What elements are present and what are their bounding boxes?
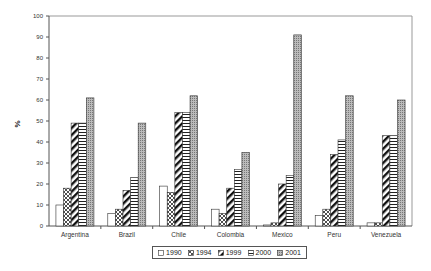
legend-label: 2000 (256, 249, 272, 256)
legend-item-1999: 1999 (218, 249, 242, 256)
bar-brazil-2000 (131, 178, 139, 226)
bar-venezuela-1999 (382, 136, 390, 226)
bar-brazil-1990 (108, 213, 116, 226)
legend-label: 2001 (285, 249, 301, 256)
legend-item-1994: 1994 (188, 249, 212, 256)
bar-chile-2001 (190, 96, 198, 226)
x-category-label: Chile (171, 231, 186, 238)
y-tick-label: 30 (36, 160, 43, 166)
bar-peru-1994 (323, 209, 331, 226)
bar-venezuela-2001 (397, 100, 405, 226)
legend-swatch-icon (277, 250, 283, 256)
legend-item-2001: 2001 (277, 249, 301, 256)
bar-mexico-1994 (271, 223, 279, 226)
bar-argentina-1994 (64, 188, 72, 226)
bar-chile-1994 (167, 192, 175, 226)
y-tick-label: 80 (36, 55, 43, 61)
bar-colombia-1990 (212, 209, 220, 226)
bar-chile-1999 (175, 113, 183, 226)
bar-argentina-1990 (56, 205, 64, 226)
y-tick-label: 70 (36, 76, 43, 82)
legend-label: 1990 (166, 249, 182, 256)
bar-brazil-1999 (123, 190, 131, 226)
bar-mexico-2000 (286, 176, 294, 226)
y-tick-label: 40 (36, 139, 43, 145)
x-category-label: Peru (327, 231, 341, 238)
legend-swatch-icon (218, 250, 224, 256)
x-category-label: Mexico (272, 231, 293, 238)
y-tick-label: 60 (36, 97, 43, 103)
bar-chile-2000 (182, 113, 190, 226)
y-tick-label: 10 (36, 202, 43, 208)
legend-item-2000: 2000 (248, 249, 272, 256)
y-tick-label: 100 (33, 13, 44, 19)
bar-mexico-2001 (294, 35, 302, 226)
legend-label: 1999 (226, 249, 242, 256)
x-category-label: Venezuela (371, 231, 402, 238)
bar-mexico-1990 (263, 225, 271, 226)
bar-venezuela-2000 (390, 136, 398, 226)
bar-peru-1999 (330, 155, 338, 226)
bar-venezuela-1994 (375, 223, 383, 226)
bar-argentina-2001 (86, 98, 94, 226)
bar-colombia-1999 (227, 188, 235, 226)
legend-swatch-icon (188, 250, 194, 256)
legend-label: 1994 (196, 249, 212, 256)
legend-swatch-icon (158, 250, 164, 256)
y-tick-label: 50 (36, 118, 43, 124)
plot-area: 0102030405060708090100%ArgentinaBrazilCh… (13, 13, 412, 239)
bar-peru-2001 (346, 96, 354, 226)
bar-peru-2000 (338, 140, 346, 226)
bar-argentina-2000 (79, 123, 87, 226)
x-category-label: Colombia (217, 231, 245, 238)
bar-mexico-1999 (279, 184, 287, 226)
y-axis-label: % (13, 120, 22, 127)
legend-item-1990: 1990 (158, 249, 182, 256)
bar-brazil-1994 (115, 209, 123, 226)
legend: 19901994199920002001 (152, 246, 307, 259)
bar-chart: 0102030405060708090100%ArgentinaBrazilCh… (0, 0, 431, 271)
bar-colombia-2000 (234, 169, 242, 226)
y-tick-label: 0 (40, 223, 44, 229)
bar-venezuela-1990 (367, 223, 375, 226)
bar-peru-1990 (315, 216, 323, 227)
x-category-label: Brazil (119, 231, 136, 238)
bar-chile-1990 (160, 186, 168, 226)
bar-colombia-1994 (219, 213, 227, 226)
bar-colombia-2001 (242, 153, 250, 227)
bar-argentina-1999 (71, 123, 79, 226)
y-tick-label: 20 (36, 181, 43, 187)
bar-brazil-2001 (138, 123, 146, 226)
y-tick-label: 90 (36, 34, 43, 40)
legend-swatch-icon (248, 250, 254, 256)
x-category-label: Argentina (61, 231, 89, 239)
